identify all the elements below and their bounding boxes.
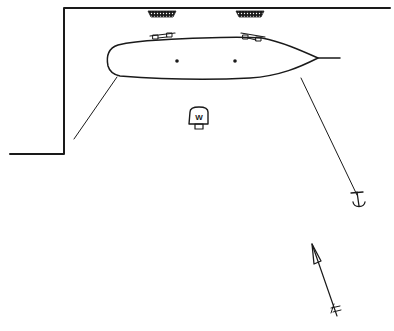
fender-1	[148, 11, 176, 17]
vessel	[107, 37, 340, 79]
quay-wall	[10, 8, 390, 154]
mooring-diagram: W	[0, 0, 394, 331]
winch: W	[189, 107, 208, 129]
direction-arrow-icon	[312, 244, 341, 316]
anchor-icon	[351, 192, 365, 207]
vessel-marker-1	[175, 59, 179, 63]
mooring-line-stern	[74, 77, 117, 139]
vessel-marker-2	[233, 59, 237, 63]
bollard-1	[150, 33, 175, 39]
fender-2	[236, 11, 264, 17]
mooring-line-bow	[301, 78, 357, 195]
winch-label: W	[195, 113, 203, 122]
